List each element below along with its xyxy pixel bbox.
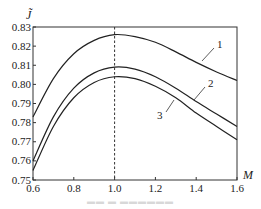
x-tick-label: 1.4 (189, 182, 203, 194)
curves (33, 34, 237, 170)
y-tick-label: 0.82 (12, 40, 31, 52)
y-tick-label: 0.80 (12, 78, 32, 90)
curve-label-2: 2 (208, 77, 214, 89)
x-tick-label: 1.2 (149, 182, 163, 194)
plot-frame (33, 27, 237, 180)
curve-2 (33, 67, 237, 161)
line-chart: 0.750.760.770.780.790.800.810.820.830.60… (0, 0, 261, 209)
y-tick-label: 0.83 (12, 21, 32, 33)
y-tick-label: 0.78 (12, 116, 32, 128)
y-tick-label: 0.77 (12, 135, 32, 147)
leader-line (202, 48, 214, 61)
curve-3 (33, 77, 237, 171)
curve-label-3: 3 (157, 109, 163, 121)
y-tick-label: 0.76 (12, 154, 32, 166)
y-tick-label: 0.81 (12, 59, 31, 71)
x-tick-label: 1.6 (230, 182, 244, 194)
y-axis-title: J̃ (26, 8, 33, 22)
plot-border (33, 27, 237, 180)
x-tick-label: 0.6 (26, 182, 40, 194)
curve-label-1: 1 (217, 38, 223, 50)
axis-ticks: 0.750.760.770.780.790.800.810.820.830.60… (12, 21, 245, 195)
curve-1 (33, 34, 237, 116)
x-tick-label: 1.0 (108, 182, 122, 194)
y-tick-label: 0.79 (12, 97, 32, 109)
leader-line (166, 100, 174, 112)
x-tick-label: 0.8 (67, 182, 81, 194)
leader-line (194, 87, 205, 100)
figure-caption: ▬▬ ▬ ▬▬▬▬▬▬ (0, 197, 261, 206)
x-axis-title: M (242, 168, 254, 182)
